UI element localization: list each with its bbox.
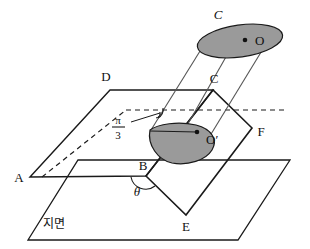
label-top-center-o: O	[255, 33, 264, 48]
label-vertex-d: D	[101, 69, 110, 84]
geometry-figure: π 3 θ C O D C A B E F O′ 지면	[0, 0, 310, 249]
label-top-circle-c: C	[214, 7, 223, 22]
top-center-point	[243, 38, 248, 43]
label-vertex-e: E	[182, 219, 190, 234]
label-vertex-c: C	[210, 71, 219, 86]
label-vertex-b: B	[139, 158, 148, 173]
figure-canvas: π 3 θ C O D C A B E F O′ 지면	[0, 0, 310, 249]
angle-label-theta: θ	[134, 184, 141, 199]
label-vertex-a: A	[14, 170, 24, 185]
label-base-center-o-prime: O′	[206, 132, 218, 147]
label-ground: 지면	[43, 217, 65, 231]
label-vertex-f: F	[257, 124, 264, 139]
pi-denominator: 3	[115, 129, 121, 141]
top-circle-ellipse	[195, 19, 285, 63]
base-center-point	[195, 130, 200, 135]
pi-numerator: π	[115, 114, 121, 126]
